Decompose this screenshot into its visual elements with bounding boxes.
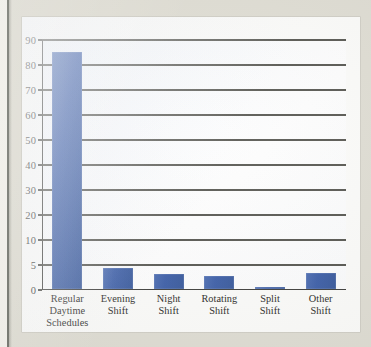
plot-area: 05102030405060708090 <box>42 40 346 290</box>
x-label-line-1: Night <box>145 293 192 305</box>
x-label-line-2: Shift <box>95 305 142 317</box>
y-axis-label-5: 5 <box>31 260 36 271</box>
gridline-80 <box>42 64 346 65</box>
y-tick-60 <box>38 114 42 115</box>
x-axis-category-labels: Regular DaytimeSchedulesEveningShiftNigh… <box>42 293 346 331</box>
x-label-line-1: Other <box>297 293 344 305</box>
bar-chart: 05102030405060708090 Regular DaytimeSche… <box>22 17 360 332</box>
y-tick-90 <box>38 39 42 40</box>
y-axis-label-0: 0 <box>31 285 36 296</box>
x-label-evening-shift: EveningShift <box>95 293 142 317</box>
gridline-5 <box>42 264 346 265</box>
y-axis-label-50: 50 <box>25 135 36 146</box>
x-label-line-1: Split <box>247 293 294 305</box>
y-tick-80 <box>38 64 42 65</box>
y-axis-label-30: 30 <box>25 185 36 196</box>
gridline-10 <box>42 239 346 240</box>
y-axis-label-70: 70 <box>25 85 36 96</box>
x-label-line-1: Evening <box>95 293 142 305</box>
y-axis-label-10: 10 <box>25 235 36 246</box>
y-tick-20 <box>38 214 42 215</box>
bar-regular-daytime-schedules <box>52 52 82 289</box>
y-tick-30 <box>38 189 42 190</box>
y-tick-5 <box>38 264 42 265</box>
gridline-40 <box>42 164 346 165</box>
x-label-night-shift: NightShift <box>145 293 192 317</box>
x-label-line-2: Shift <box>247 305 294 317</box>
gridline-70 <box>42 89 346 90</box>
x-label-line-2: Schedules <box>44 317 91 329</box>
spine-shadow <box>9 0 12 347</box>
gridline-50 <box>42 139 346 140</box>
figure-card: 05102030405060708090 Regular DaytimeSche… <box>22 17 360 332</box>
bar-rotating-shift <box>204 276 234 289</box>
y-tick-10 <box>38 239 42 240</box>
x-label-line-1: Regular Daytime <box>44 293 91 317</box>
page-left-margin <box>0 0 7 347</box>
x-label-line-2: Shift <box>297 305 344 317</box>
x-label-line-2: Shift <box>196 305 243 317</box>
y-tick-0 <box>38 289 42 290</box>
x-axis-line <box>42 289 346 290</box>
x-label-other-shift: OtherShift <box>297 293 344 317</box>
y-tick-70 <box>38 89 42 90</box>
bar-evening-shift <box>103 268 133 289</box>
gridline-60 <box>42 114 346 115</box>
x-label-split-shift: SplitShift <box>247 293 294 317</box>
y-axis-label-20: 20 <box>25 210 36 221</box>
y-axis-label-60: 60 <box>25 110 36 121</box>
bar-split-shift <box>255 287 285 289</box>
scanned-page: 05102030405060708090 Regular DaytimeSche… <box>0 0 371 347</box>
bar-other-shift <box>306 273 336 289</box>
y-axis-label-40: 40 <box>25 160 36 171</box>
x-label-rotating-shift: RotatingShift <box>196 293 243 317</box>
x-label-regular-daytime-schedules: Regular DaytimeSchedules <box>44 293 91 330</box>
y-tick-40 <box>38 164 42 165</box>
gridline-30 <box>42 189 346 190</box>
x-label-line-2: Shift <box>145 305 192 317</box>
gridline-90 <box>42 39 346 40</box>
gridline-20 <box>42 214 346 215</box>
x-label-line-1: Rotating <box>196 293 243 305</box>
y-axis-label-90: 90 <box>25 35 36 46</box>
y-tick-50 <box>38 139 42 140</box>
y-axis-label-80: 80 <box>25 60 36 71</box>
bar-night-shift <box>154 274 184 289</box>
